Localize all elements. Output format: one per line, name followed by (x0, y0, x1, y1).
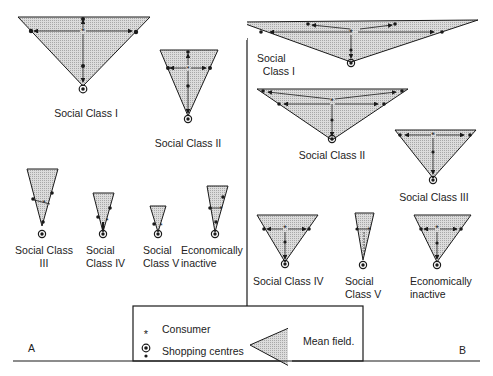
panel-label-b: B (459, 344, 466, 357)
label-a-social-class-5: Social Class V (143, 244, 179, 270)
field-a-economically-inactive: * (207, 186, 228, 238)
label-a-social-class-2: Social Class II (148, 137, 228, 150)
svg-text:*: * (186, 64, 189, 73)
field-a-social-class-5: * (150, 206, 166, 238)
svg-text:*: * (431, 130, 435, 140)
panel-label-a: A (28, 342, 35, 355)
legend-shopping-label: Shopping centres (162, 345, 244, 358)
field-a-social-class-3: * (27, 169, 58, 238)
legend-consumer-label: Consumer (162, 323, 210, 336)
label-a-social-class-1: Social Class I (48, 107, 124, 120)
field-a-social-class-4: * (93, 193, 114, 238)
svg-text:*: * (435, 223, 439, 233)
svg-text:*: * (105, 216, 108, 225)
svg-text:*: * (283, 223, 287, 233)
legend-mean-field-label: Mean field. (303, 335, 354, 348)
label-b-economically-inactive: Economically inactive (410, 275, 472, 301)
field-b-social-class-3: * (395, 130, 476, 184)
svg-text:*: * (349, 27, 353, 37)
svg-text:*: * (219, 204, 222, 213)
svg-text:*: * (42, 198, 45, 207)
svg-text:*: * (367, 225, 370, 234)
diagram-canvas: * * * * (0, 0, 493, 376)
label-b-social-class-3: Social Class III (393, 191, 475, 204)
svg-text:*: * (81, 26, 85, 36)
label-b-social-class-4: Social Class IV (253, 275, 324, 288)
label-a-social-class-3: Social Class III (12, 244, 76, 270)
field-b-social-class-2: * (257, 89, 408, 143)
label-a-social-class-4: Social Class IV (86, 244, 125, 270)
consumer-symbol-icon: * (144, 328, 149, 340)
label-b-social-class-1: Social Class I (257, 52, 295, 78)
svg-text:*: * (159, 221, 162, 230)
label-b-social-class-2: Social Class II (292, 149, 372, 162)
label-a-economically-inactive: Economically inactive (181, 244, 243, 270)
field-b-social-class-4: * (257, 215, 318, 268)
svg-text:*: * (330, 96, 334, 106)
field-a-social-class-1: * (18, 17, 150, 93)
field-b-economically-inactive: * (414, 215, 471, 269)
label-b-social-class-5: Social Class V (345, 275, 381, 301)
field-a-social-class-2: * (160, 50, 218, 123)
field-b-social-class-5: * (355, 213, 374, 269)
